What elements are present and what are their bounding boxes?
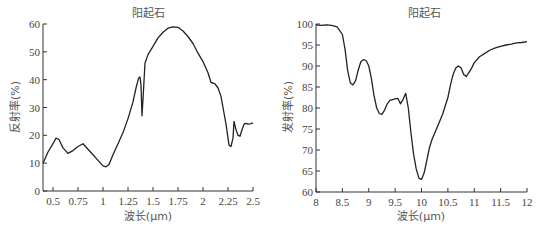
y-tick-label: 90 [302, 60, 314, 72]
y-tick-label: 70 [302, 144, 314, 156]
y-tick-label: 20 [29, 129, 41, 141]
figure: 阳起石 0102030405060 0.50.7511.251.51.7522.… [0, 0, 544, 234]
x-axis-ticks: 88.599.51010.51111.512 [313, 188, 532, 208]
x-tick-label: 1.5 [146, 195, 160, 207]
emissivity-chart: 阳起石 6065707580859095100 88.599.51010.511… [281, 7, 533, 223]
x-tick-label: 9 [366, 196, 372, 208]
chart-title: 阳起石 [408, 7, 441, 20]
x-tick-label: 11.5 [491, 196, 510, 208]
y-tick-label: 85 [302, 81, 314, 93]
y-tick-label: 80 [302, 102, 314, 114]
x-tick-label: 9.5 [388, 196, 402, 208]
y-tick-label: 60 [302, 186, 314, 198]
axes-frame [43, 24, 253, 191]
y-tick-label: 30 [29, 102, 41, 114]
x-tick-label: 1.75 [168, 195, 188, 207]
y-axis-label: 反射率(%) [8, 81, 22, 133]
x-axis-ticks: 0.50.7511.251.51.7522.252.5 [46, 187, 260, 207]
x-tick-label: 0.5 [46, 195, 60, 207]
x-tick-label: 2 [200, 195, 206, 207]
spectrum-line [43, 27, 253, 167]
y-tick-label: 0 [35, 185, 41, 197]
reflectance-chart: 阳起石 0102030405060 0.50.7511.251.51.7522.… [8, 7, 260, 223]
y-tick-label: 65 [302, 165, 314, 177]
spectrum-line [316, 25, 527, 180]
y-tick-label: 10 [29, 157, 41, 169]
x-tick-label: 1.25 [118, 195, 138, 207]
y-axis-ticks: 0102030405060 [29, 18, 47, 197]
x-tick-label: 0.75 [68, 195, 88, 207]
y-tick-label: 50 [29, 46, 41, 58]
x-tick-label: 1 [100, 195, 106, 207]
axes-frame [316, 24, 527, 192]
x-tick-label: 8 [313, 196, 319, 208]
x-tick-label: 10.5 [438, 196, 458, 208]
chart-title: 阳起石 [132, 7, 165, 20]
y-axis-label: 发射率(%) [281, 81, 295, 133]
x-axis-label: 波长(μm) [124, 210, 172, 223]
y-tick-label: 100 [297, 18, 314, 30]
x-tick-label: 8.5 [336, 196, 350, 208]
x-tick-label: 2.5 [246, 195, 260, 207]
x-tick-label: 11 [469, 196, 480, 208]
y-tick-label: 95 [302, 39, 314, 51]
x-tick-label: 2.25 [218, 195, 238, 207]
x-tick-label: 12 [522, 196, 533, 208]
x-tick-label: 10 [416, 196, 428, 208]
y-tick-label: 60 [29, 18, 41, 30]
y-tick-label: 40 [29, 74, 41, 86]
y-tick-label: 75 [302, 123, 314, 135]
x-axis-label: 波长(μm) [397, 210, 445, 223]
